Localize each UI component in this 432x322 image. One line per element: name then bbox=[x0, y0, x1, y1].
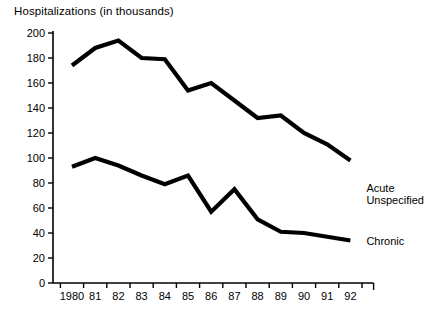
x-tick-label: 90 bbox=[298, 290, 310, 302]
x-tick-label: 92 bbox=[344, 290, 356, 302]
x-tick-label: 1980 bbox=[60, 290, 84, 302]
x-tick-label: 88 bbox=[251, 290, 263, 302]
y-tick-label: 180 bbox=[27, 52, 45, 64]
y-tick-label: 100 bbox=[27, 152, 45, 164]
series-label-acute-line1: Acute bbox=[366, 182, 394, 194]
series-line-chronic bbox=[72, 158, 350, 241]
series-line-acute-unspecified bbox=[72, 41, 350, 161]
line-chart-plot: 020406080100120140160180200 198081828384… bbox=[0, 0, 432, 322]
y-tick-label: 80 bbox=[33, 177, 45, 189]
x-tick-label: 81 bbox=[89, 290, 101, 302]
y-tick-label: 160 bbox=[27, 77, 45, 89]
x-tick-label: 82 bbox=[112, 290, 124, 302]
y-tick-label: 40 bbox=[33, 227, 45, 239]
x-tick-label: 89 bbox=[275, 290, 287, 302]
chart-container: Hospitalizations (in thousands) 02040608… bbox=[0, 0, 432, 322]
series-annotations: AcuteUnspecifiedChronic bbox=[366, 182, 423, 247]
x-tick-label: 86 bbox=[205, 290, 217, 302]
series-label-chronic: Chronic bbox=[366, 235, 404, 247]
y-tick-label: 200 bbox=[27, 27, 45, 39]
x-tick-label: 84 bbox=[159, 290, 171, 302]
y-tick-label: 140 bbox=[27, 102, 45, 114]
y-axis: 020406080100120140160180200 bbox=[27, 27, 53, 289]
series-label-acute-line2: Unspecified bbox=[366, 194, 423, 206]
x-tick-label: 87 bbox=[228, 290, 240, 302]
x-tick-label: 91 bbox=[321, 290, 333, 302]
series-lines bbox=[72, 41, 350, 241]
x-axis: 1980818283848586878889909192 bbox=[53, 283, 374, 302]
y-tick-label: 20 bbox=[33, 252, 45, 264]
y-tick-label: 0 bbox=[39, 277, 45, 289]
x-tick-label: 85 bbox=[182, 290, 194, 302]
y-tick-label: 120 bbox=[27, 127, 45, 139]
x-tick-label: 83 bbox=[135, 290, 147, 302]
y-tick-label: 60 bbox=[33, 202, 45, 214]
